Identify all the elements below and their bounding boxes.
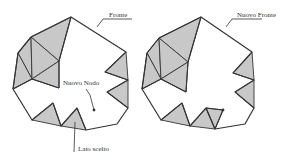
label-nuovo-fronte: Nuovo Fronte: [237, 12, 276, 19]
label-fronte: Fronte: [109, 12, 127, 19]
label-lato-scelto: Lato scelto: [78, 146, 109, 153]
new-node-dot: [222, 109, 225, 112]
leader-fronte: [97, 19, 132, 27]
diagram-after-front-advance: [142, 17, 254, 129]
mesh-diagram-canvas: [0, 0, 284, 161]
diagram-before-front-advance: [13, 17, 128, 130]
label-nuovo-nodo: Nuovo Nodo: [63, 80, 99, 87]
leader-nuovo-fronte: [226, 19, 262, 27]
